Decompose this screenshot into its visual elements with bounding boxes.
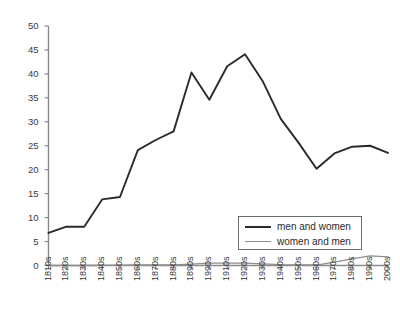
legend-item-men-and-women: men and women [245,219,351,234]
x-axis-tick-label: 1840s [97,256,106,281]
x-axis-tick-label: 1970s [329,256,338,281]
x-axis-tick-label: 1980s [347,256,356,281]
x-axis-tick-label: 1810s [44,256,53,281]
chart-legend: men and women women and men [238,216,362,250]
legend-label: women and men [277,236,351,247]
y-axis-tick-label: 0 [13,261,39,271]
x-axis-tick-label: 1890s [186,256,195,281]
y-axis-tick-label: 45 [13,45,39,55]
x-axis-tick-label: 1990s [365,256,374,281]
x-axis-tick-label: 1870s [151,256,160,281]
x-axis-tick-label: 1930s [258,256,267,281]
series-line-men-and-women [49,54,389,233]
x-axis-tick-label: 1820s [61,256,70,281]
y-axis-tick-label: 35 [13,93,39,103]
y-axis-tick-label: 25 [13,141,39,151]
x-axis-tick-label: 1960s [312,256,321,281]
x-axis-tick-label: 1940s [276,256,285,281]
x-axis-tick-label: 1860s [133,256,142,281]
y-axis-tick-label: 50 [13,21,39,31]
x-axis-tick-label: 1990s [204,256,213,281]
y-axis-tick-label: 20 [13,165,39,175]
line-chart: 05101520253035404550 1810s1820s1830s1840… [0,0,400,320]
x-axis-tick-label: 1880s [169,256,178,281]
legend-item-women-and-men: women and men [245,234,351,249]
x-axis-tick-label: 2000s [383,256,392,281]
legend-line-swatch-women-and-men [245,241,271,242]
x-axis-tick-label: 1910s [222,256,231,281]
legend-label: men and women [277,221,351,232]
x-axis-tick-label: 1950s [294,256,303,281]
y-axis-tick-label: 15 [13,189,39,199]
x-axis-tick-label: 1850s [115,256,124,281]
y-axis-tick-label: 5 [13,237,39,247]
y-axis-tick-label: 10 [13,213,39,223]
y-axis-tick-label: 30 [13,117,39,127]
y-axis-tick-label: 40 [13,69,39,79]
legend-line-swatch-men-and-women [245,226,271,228]
x-axis-tick-label: 1830s [79,256,88,281]
x-axis-tick-label: 1920s [240,256,249,281]
